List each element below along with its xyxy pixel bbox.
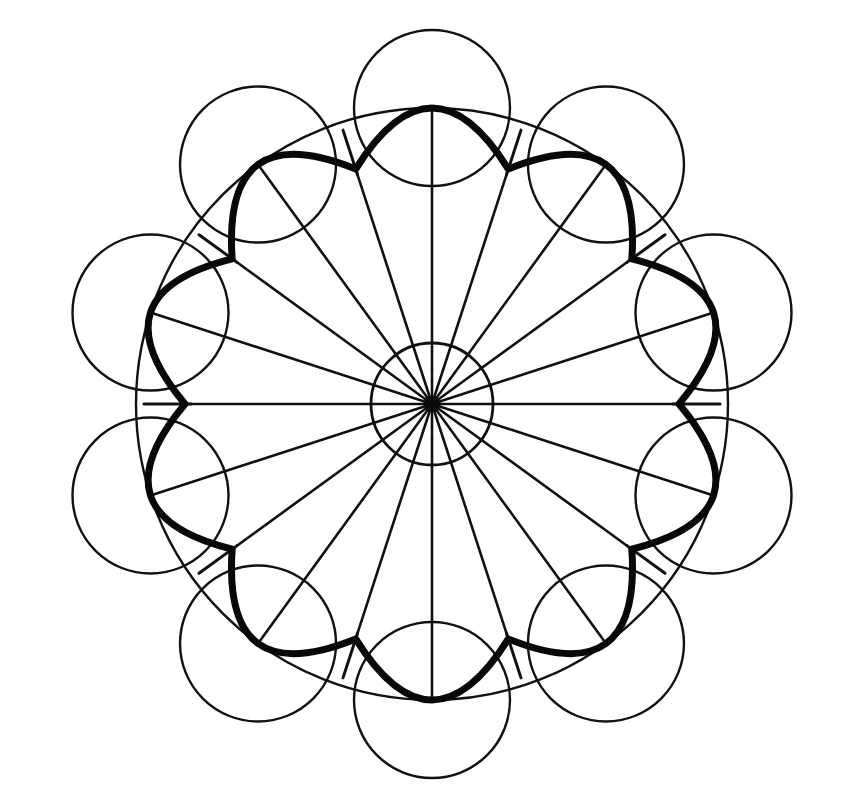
mandala-figure xyxy=(0,0,842,807)
hub-dot xyxy=(424,396,440,412)
drawing-canvas xyxy=(0,0,842,807)
